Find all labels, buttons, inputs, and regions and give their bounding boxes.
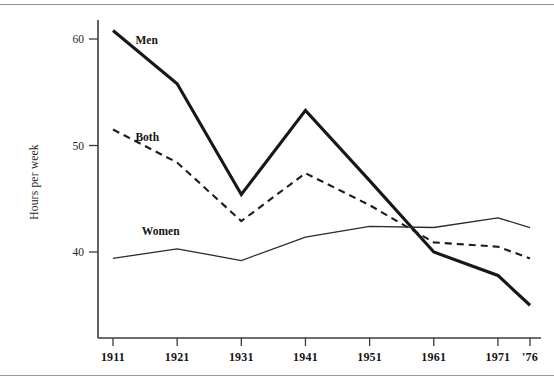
series-label-both: Both	[135, 131, 159, 143]
x-axis-tick-label: 1921	[165, 350, 190, 364]
x-axis-tick-label: 1931	[229, 350, 254, 364]
x-axis-tick-label: 1911	[101, 350, 125, 364]
x-axis-tick-label: 1951	[357, 350, 382, 364]
x-axis-tick-label: 1961	[421, 350, 446, 364]
series-label-women: Women	[142, 225, 180, 237]
series-line-both	[113, 130, 530, 259]
series-line-men	[113, 30, 530, 305]
series-label-men: Men	[135, 34, 158, 46]
y-axis-tick-label: 50	[73, 140, 85, 152]
x-axis-tick-label: '76	[522, 350, 538, 364]
y-axis-title: Hours per week	[28, 144, 41, 220]
y-axis-tick-label: 40	[73, 246, 85, 258]
x-axis-tick-label: 1941	[293, 350, 318, 364]
line-chart: 6050401911192119311941195119611971'76Hou…	[0, 0, 554, 387]
x-axis-tick-label: 1971	[486, 350, 511, 364]
y-axis-tick-label: 60	[73, 33, 85, 45]
chart-figure: 6050401911192119311941195119611971'76Hou…	[0, 0, 554, 387]
